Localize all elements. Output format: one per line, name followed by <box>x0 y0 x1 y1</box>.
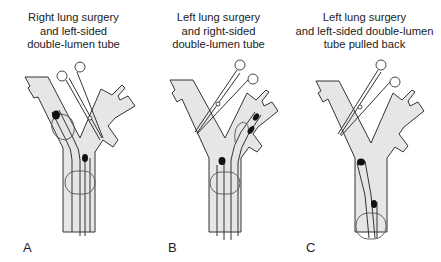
panel-b-letter: B <box>168 240 177 255</box>
panel-c: Left lung surgery and left-sided double-… <box>291 0 438 262</box>
bronchial-tree-icon <box>0 0 147 262</box>
panel-a: Right lung surgery and left-sided double… <box>0 0 147 262</box>
bronchial-tree-icon <box>145 0 292 262</box>
panel-c-letter: C <box>306 240 315 255</box>
bronchial-tree-icon <box>291 0 438 262</box>
panel-a-letter: A <box>23 240 32 255</box>
panel-b: Left lung surgery and right-sided double… <box>145 0 292 262</box>
